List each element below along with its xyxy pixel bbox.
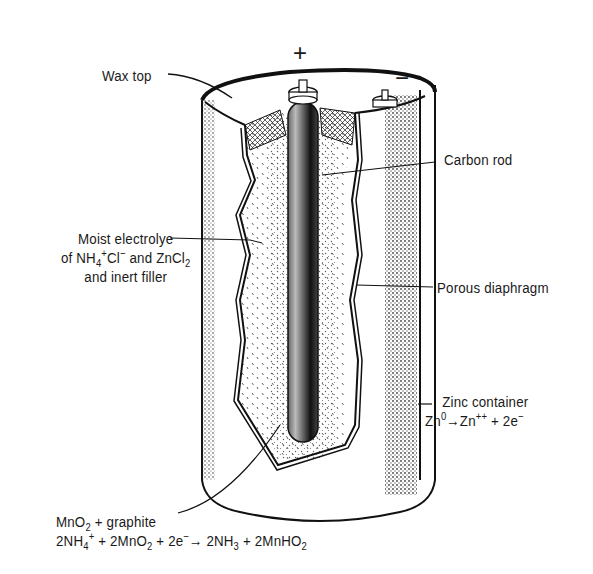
label-wax-top: Wax top [102,66,152,85]
label-zinc-container: Zinc container Zn0→Zn++ + 2e− [425,392,528,430]
electrolyte-line-1: Moist electrolye [44,229,207,248]
cathode-reaction: 2NH4+ + 2MnO2 + 2e−→ 2NH3 + 2MnHO2 [56,531,307,550]
zinc-reaction: Zn0→Zn++ + 2e− [425,411,528,430]
zinc-container-title: Zinc container [425,392,528,411]
positive-terminal-sign: + [293,41,307,65]
electrolyte-line-2: of NH4+Cl− and ZnCl2 [44,248,207,267]
electrolyte-line-3: and inert filler [44,267,207,286]
carbon-rod-shape [288,102,318,442]
label-porous-diaphragm: Porous diaphragm [437,278,549,297]
negative-terminal-sign: − [395,66,409,90]
label-cathode-mix: MnO2 + graphite 2NH4+ + 2MnO2 + 2e−→ 2NH… [56,512,307,550]
label-electrolyte: Moist electrolye of NH4+Cl− and ZnCl2 an… [44,229,207,286]
cathode-line-1: MnO2 + graphite [56,512,307,531]
label-carbon-rod: Carbon rod [444,150,512,169]
